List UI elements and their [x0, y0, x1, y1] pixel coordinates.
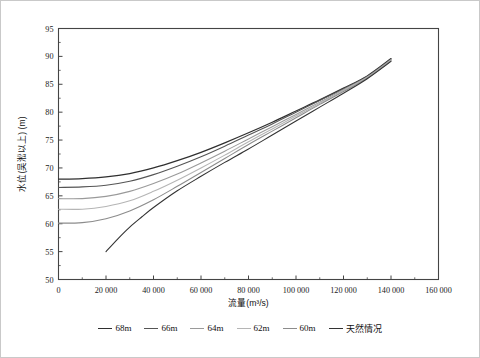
legend-line-icon	[237, 328, 251, 329]
legend-item-label: 62m	[254, 323, 270, 333]
series-line	[59, 60, 392, 209]
chart-legend: 68m66m64m62m60m天然情况	[1, 317, 479, 339]
y-tick-label: 85	[45, 80, 53, 89]
legend-line-icon	[190, 328, 204, 329]
legend-line-icon	[98, 328, 112, 329]
x-tick-label: 0	[56, 286, 60, 295]
data-series	[59, 59, 392, 252]
legend-item[interactable]: 66m	[144, 323, 177, 333]
legend-item[interactable]: 天然情况	[329, 322, 382, 335]
x-tick-label: 100 000	[283, 286, 310, 295]
y-tick-label: 80	[45, 108, 53, 117]
x-axis-title: 流量(m³/s)	[228, 297, 269, 308]
y-tick-label: 70	[45, 164, 53, 173]
y-tick-labels: 50556065707580859095	[45, 25, 53, 285]
legend-line-icon	[144, 328, 158, 329]
legend-item[interactable]: 64m	[190, 323, 223, 333]
legend-item-label: 68m	[115, 323, 131, 333]
line-chart: 020 00040 00060 00080 000100 000120 0001…	[1, 1, 480, 358]
y-tick-label: 55	[45, 248, 53, 257]
legend-item[interactable]: 60m	[283, 323, 316, 333]
y-tick-label: 90	[45, 52, 53, 61]
chart-figure: 020 00040 00060 00080 000100 000120 0001…	[0, 0, 480, 358]
plot-area-wrapper: 020 00040 00060 00080 000100 000120 0001…	[1, 1, 480, 358]
y-tick-label: 75	[45, 136, 53, 145]
series-line	[59, 59, 392, 179]
legend-item[interactable]: 68m	[98, 323, 131, 333]
legend-line-icon	[329, 328, 343, 329]
x-tick-label: 40 000	[142, 286, 165, 295]
series-line	[59, 60, 392, 199]
y-axis-title: 水位(吴淞以上) (m)	[16, 116, 27, 191]
series-line	[59, 61, 392, 223]
series-line	[59, 59, 392, 187]
x-tick-label: 160 000	[425, 286, 452, 295]
legend-item-label: 66m	[161, 323, 177, 333]
x-tick-labels: 020 00040 00060 00080 000100 000120 0001…	[56, 286, 451, 295]
y-tick-label: 60	[45, 220, 53, 229]
x-tick-label: 60 000	[190, 286, 213, 295]
x-tick-label: 20 000	[95, 286, 118, 295]
legend-item-label: 64m	[207, 323, 223, 333]
series-line	[106, 61, 391, 251]
legend-item[interactable]: 62m	[237, 323, 270, 333]
x-tick-label: 140 000	[378, 286, 405, 295]
legend-item-label: 天然情况	[346, 322, 382, 335]
y-tick-label: 50	[45, 276, 53, 285]
y-tick-label: 95	[45, 25, 53, 34]
x-tick-label: 80 000	[237, 286, 260, 295]
y-tick-label: 65	[45, 192, 53, 201]
x-tick-label: 120 000	[330, 286, 357, 295]
legend-item-label: 60m	[300, 323, 316, 333]
legend-line-icon	[283, 328, 297, 329]
axis-titles: 流量(m³/s)水位(吴淞以上) (m)	[16, 116, 269, 307]
